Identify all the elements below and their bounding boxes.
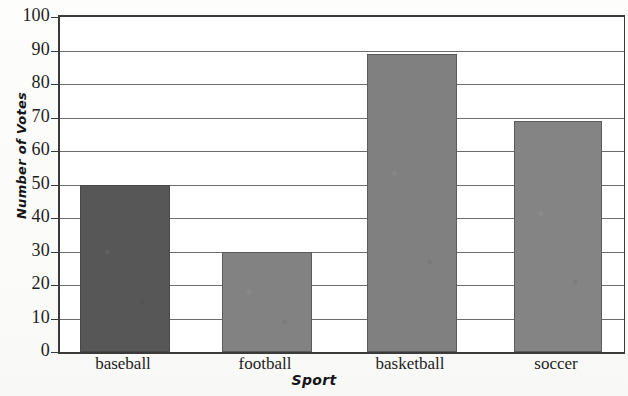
y-axis-tick-label: 50 bbox=[6, 174, 50, 192]
y-axis-tick-label: 80 bbox=[6, 73, 50, 91]
y-axis-tick bbox=[51, 51, 58, 52]
y-axis-tick-labels: 0102030405060708090100 bbox=[0, 15, 50, 350]
y-axis-tick-label: 30 bbox=[6, 241, 50, 259]
gridline bbox=[60, 51, 624, 52]
y-axis-tick-label: 20 bbox=[6, 274, 50, 292]
bar-football bbox=[222, 252, 312, 353]
y-axis-tick-label: 60 bbox=[6, 140, 50, 158]
y-axis-tick bbox=[51, 118, 58, 119]
y-axis-tick bbox=[51, 185, 58, 186]
bar-basketball bbox=[367, 54, 457, 352]
gridline bbox=[60, 118, 624, 119]
y-axis-tick-label: 90 bbox=[6, 40, 50, 58]
y-axis-tick bbox=[51, 252, 58, 253]
y-axis-tick bbox=[51, 84, 58, 85]
y-axis-tick-label: 100 bbox=[6, 6, 50, 24]
bar-baseball bbox=[80, 185, 170, 353]
y-axis-tick bbox=[51, 319, 58, 320]
gridline bbox=[60, 84, 624, 85]
y-axis-tick-label: 10 bbox=[6, 308, 50, 326]
y-axis-tick-label: 70 bbox=[6, 107, 50, 125]
y-axis-tick bbox=[51, 285, 58, 286]
y-axis-tick-label: 40 bbox=[6, 207, 50, 225]
y-axis-tick bbox=[51, 151, 58, 152]
y-axis-tick-label: 0 bbox=[6, 341, 50, 359]
x-axis-title: Sport bbox=[0, 372, 628, 388]
bar-soccer bbox=[514, 121, 602, 352]
y-axis-tick bbox=[51, 17, 58, 18]
y-axis-tick bbox=[51, 352, 58, 353]
y-axis-tick bbox=[51, 218, 58, 219]
plot-area bbox=[58, 15, 625, 354]
bar-chart-figure: Number of Votes 0102030405060708090100 b… bbox=[0, 0, 628, 396]
